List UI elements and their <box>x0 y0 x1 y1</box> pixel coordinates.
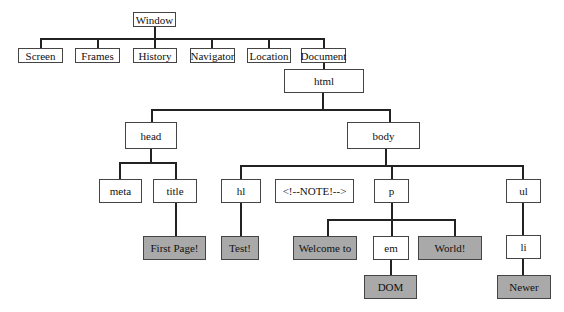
node-li: li <box>506 235 541 259</box>
connector <box>175 162 177 179</box>
connector <box>322 92 324 109</box>
node-h1: hl <box>221 179 261 203</box>
connector <box>522 165 524 179</box>
connector <box>522 202 524 235</box>
connector <box>391 202 393 219</box>
connector <box>268 38 270 48</box>
node-document: Document <box>301 48 346 63</box>
node-screen: Screen <box>18 48 63 63</box>
connector <box>454 219 456 236</box>
node-p: p <box>374 179 409 203</box>
connector <box>389 109 391 122</box>
connector <box>211 38 213 48</box>
node-welcome-text: Welcome to <box>293 236 357 260</box>
connector <box>40 38 324 40</box>
node-body: body <box>347 122 420 149</box>
connector <box>119 162 176 164</box>
node-html: html <box>284 69 364 93</box>
node-window: Window <box>133 12 176 27</box>
connector <box>119 162 121 179</box>
node-first-page-text: First Page! <box>143 236 206 260</box>
connector <box>390 259 392 275</box>
connector <box>40 38 42 48</box>
connector <box>323 62 325 69</box>
node-meta: meta <box>99 179 142 203</box>
connector <box>323 38 325 48</box>
connector <box>240 165 242 179</box>
connector <box>97 38 99 48</box>
node-em: em <box>373 236 409 260</box>
node-test-text: Test! <box>221 236 259 260</box>
connector <box>391 165 393 179</box>
node-head: head <box>125 122 177 149</box>
connector <box>522 258 524 275</box>
node-frames: Frames <box>75 48 120 63</box>
connector <box>154 38 156 48</box>
node-title: title <box>153 179 197 203</box>
node-ul: ul <box>506 179 541 203</box>
node-dom-text: DOM <box>364 275 417 299</box>
connector <box>240 202 242 236</box>
connector <box>391 219 393 236</box>
connector <box>385 149 387 165</box>
node-history: History <box>133 48 177 63</box>
connector <box>327 219 329 236</box>
connector <box>154 26 156 38</box>
connector <box>175 202 177 236</box>
connector <box>240 165 523 167</box>
node-comment: <!--NOTE!--> <box>275 179 354 203</box>
dom-tree-diagram: Window Screen Frames History Navigator L… <box>0 0 564 312</box>
node-newer-text: Newer <box>497 275 551 299</box>
connector <box>150 149 152 162</box>
connector <box>151 109 390 111</box>
node-world-text: World! <box>418 236 482 260</box>
node-location: Location <box>247 48 291 63</box>
node-navigator: Navigator <box>190 48 235 63</box>
connector <box>151 109 153 122</box>
